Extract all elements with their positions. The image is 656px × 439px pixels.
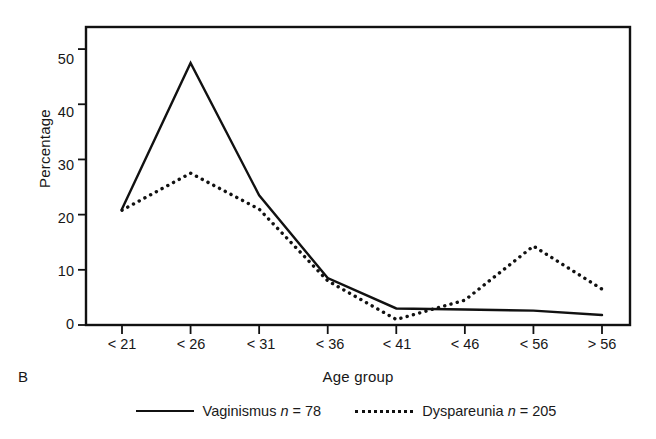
legend-swatch-solid-line-icon xyxy=(136,410,194,412)
series-line-vaginismus xyxy=(122,63,602,315)
legend-item-dyspareunia: Dyspareunia n = 205 xyxy=(355,403,556,419)
legend: Vaginismus n = 78 Dyspareunia n = 205 xyxy=(86,396,606,426)
legend-label-dyspareunia: Dyspareunia n = 205 xyxy=(422,403,556,419)
plot-frame xyxy=(86,27,630,325)
legend-swatch-dotted-line-icon xyxy=(355,410,413,413)
plot-area xyxy=(0,0,656,439)
x-axis-ticks xyxy=(122,325,602,334)
legend-label-vaginismus: Vaginismus n = 78 xyxy=(203,403,322,419)
series-line-dyspareunia xyxy=(122,173,602,319)
legend-item-vaginismus: Vaginismus n = 78 xyxy=(136,403,322,419)
series-layer xyxy=(122,63,602,320)
figure-panel-b: Percentage 50 40 30 20 10 0 < 21 < 26 < … xyxy=(0,0,656,439)
